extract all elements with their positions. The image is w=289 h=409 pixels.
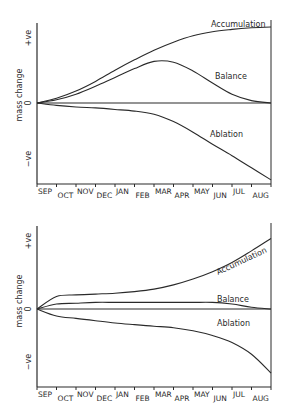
month-label: MAY	[194, 390, 210, 399]
month-label: FEB	[136, 191, 150, 200]
y-axis-title: mass change	[15, 68, 24, 121]
month-label: MAR	[155, 187, 172, 196]
top-chart: SEPOCTNOVDECJANFEBMARAPRMAYJUNJULAUG+ve0…	[0, 0, 289, 205]
balance-curve	[37, 61, 271, 103]
month-label: JUL	[232, 390, 246, 399]
month-label: OCT	[58, 394, 74, 403]
month-label: MAY	[194, 187, 210, 196]
balance-label: Balance	[217, 295, 249, 304]
y-tick-positive: +ve	[24, 233, 33, 249]
month-label: JUN	[213, 394, 227, 403]
accumulation-label: Accumulation	[211, 20, 266, 29]
month-label: DEC	[97, 191, 113, 200]
bottom-chart: SEPOCTNOVDECJANFEBMARAPRMAYJUNJULAUG+ve0…	[0, 205, 289, 409]
month-label: AUG	[253, 191, 270, 200]
month-label: JUL	[232, 187, 246, 196]
ablation-label: Ablation	[210, 130, 243, 139]
month-label: NOV	[77, 187, 94, 196]
y-axis-labels: +ve0−vemass change	[15, 30, 33, 167]
y-axis-labels: +ve0−vemass change	[15, 233, 33, 370]
y-tick-zero: 0	[24, 100, 33, 105]
month-label: NOV	[77, 390, 94, 399]
accumulation-label: Accumulation	[215, 246, 268, 277]
month-label: OCT	[58, 191, 74, 200]
month-label: SEP	[38, 390, 52, 399]
y-tick-positive: +ve	[24, 30, 33, 46]
ablation-label: Ablation	[217, 319, 250, 328]
month-label: APR	[175, 394, 190, 403]
y-tick-zero: 0	[24, 306, 33, 311]
month-label: AUG	[253, 394, 270, 403]
month-label: SEP	[38, 187, 52, 196]
ablation-curve	[37, 103, 271, 180]
month-label: DEC	[97, 394, 113, 403]
balance-label: Balance	[215, 72, 247, 81]
month-label: MAR	[155, 390, 172, 399]
y-tick-negative: −ve	[24, 151, 33, 167]
bottom-chart-svg: SEPOCTNOVDECJANFEBMARAPRMAYJUNJULAUG+ve0…	[0, 205, 289, 409]
y-tick-negative: −ve	[24, 354, 33, 370]
month-label: APR	[175, 191, 190, 200]
month-label: JUN	[213, 191, 227, 200]
month-label: JAN	[115, 390, 129, 399]
month-label: JAN	[115, 187, 129, 196]
y-axis-title: mass change	[15, 274, 24, 327]
month-label: FEB	[136, 394, 150, 403]
accumulation-curve	[37, 27, 271, 103]
top-chart-svg: SEPOCTNOVDECJANFEBMARAPRMAYJUNJULAUG+ve0…	[0, 0, 289, 205]
